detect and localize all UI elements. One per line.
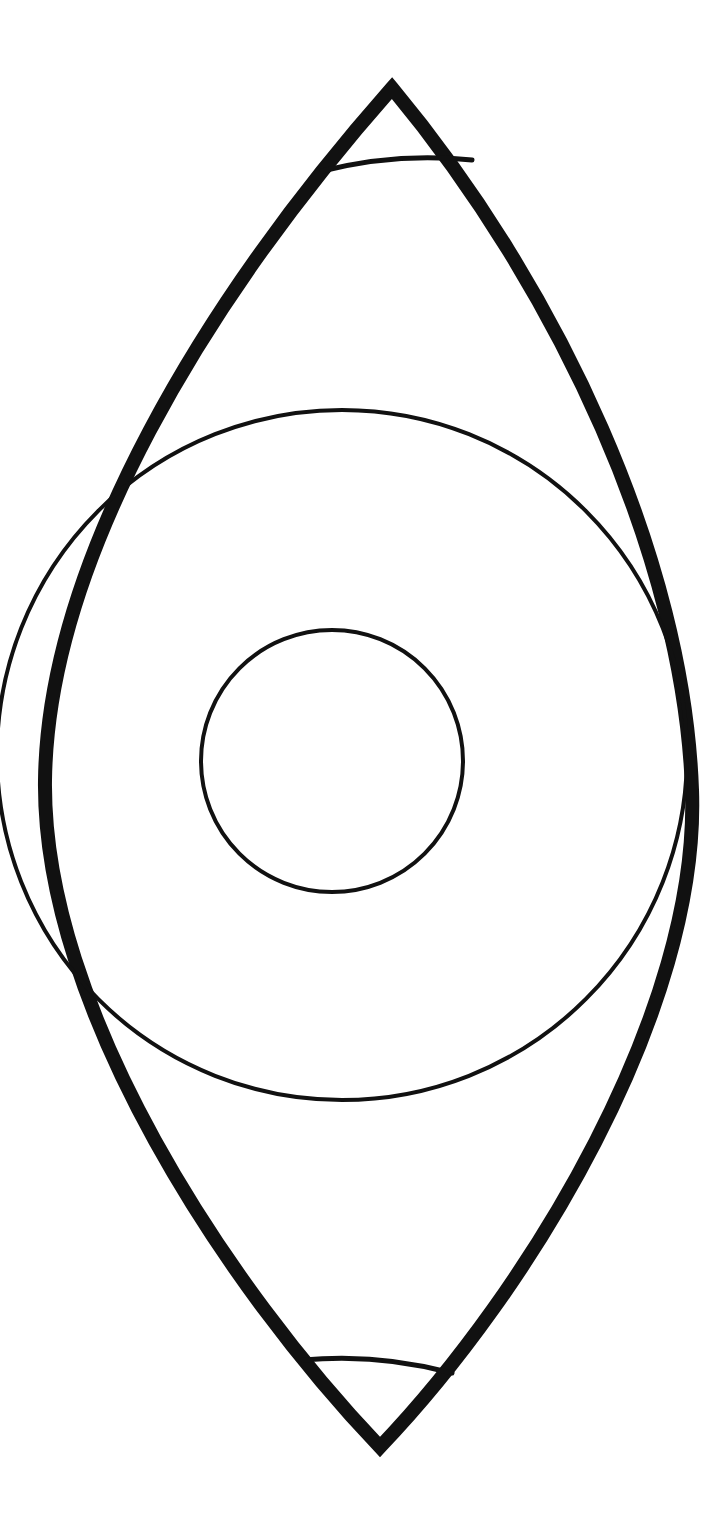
canvas-background [0,0,728,1519]
drawing-canvas [0,0,728,1519]
figure-svg [0,0,728,1519]
